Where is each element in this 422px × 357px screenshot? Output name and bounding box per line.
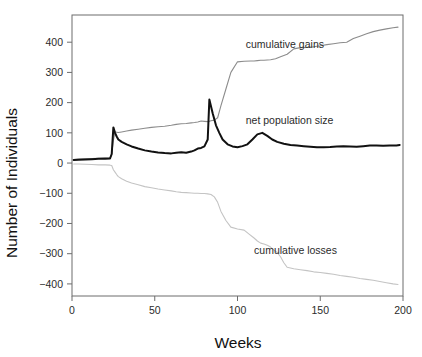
y-tick-label: 200 [45, 96, 63, 108]
x-axis-title: Weeks [214, 334, 261, 351]
y-tick-label: −200 [39, 217, 63, 229]
y-tick-label: −300 [39, 247, 63, 259]
population-dynamics-line-chart: −400−300−200−1000100200300400 0501001502… [0, 0, 422, 357]
x-tick-label: 200 [394, 304, 412, 316]
y-axis-ticks: −400−300−200−1000100200300400 [39, 36, 72, 290]
series-annotation-label: cumulative gains [246, 38, 324, 50]
y-tick-label: 300 [45, 66, 63, 78]
plot-area-border [72, 15, 403, 296]
y-tick-label: 100 [45, 127, 63, 139]
y-tick-label: −100 [39, 187, 63, 199]
series-annotation-label: cumulative losses [254, 244, 337, 256]
series-annotation-label: net population size [246, 114, 334, 126]
x-tick-label: 150 [311, 304, 329, 316]
y-tick-label: −400 [39, 278, 63, 290]
x-tick-label: 100 [229, 304, 247, 316]
x-tick-label: 50 [149, 304, 161, 316]
chart-figure: −400−300−200−1000100200300400 0501001502… [0, 0, 422, 357]
y-tick-label: 0 [57, 157, 63, 169]
x-tick-label: 0 [69, 304, 75, 316]
y-axis-title: Number of Individuals [3, 108, 20, 258]
y-tick-label: 400 [45, 36, 63, 48]
x-axis-ticks: 050100150200 [69, 296, 412, 316]
plot-frame [72, 15, 403, 296]
